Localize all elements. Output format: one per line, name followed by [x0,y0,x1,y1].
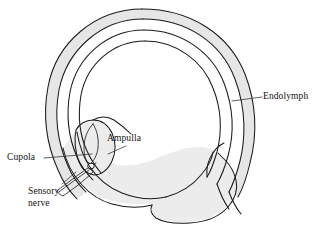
label-sensory-nerve: Sensorynerve [28,186,59,209]
semicircular-canal-figure: Endolymph Ampulla Cupola Sensorynerve [0,0,319,228]
label-sensory-nerve-line2: nerve [28,198,50,208]
label-ampulla: Ampulla [107,133,141,145]
label-sensory-nerve-line1: Sensory [28,186,59,196]
label-cupola: Cupola [7,152,35,164]
label-endolymph: Endolymph [263,91,308,103]
